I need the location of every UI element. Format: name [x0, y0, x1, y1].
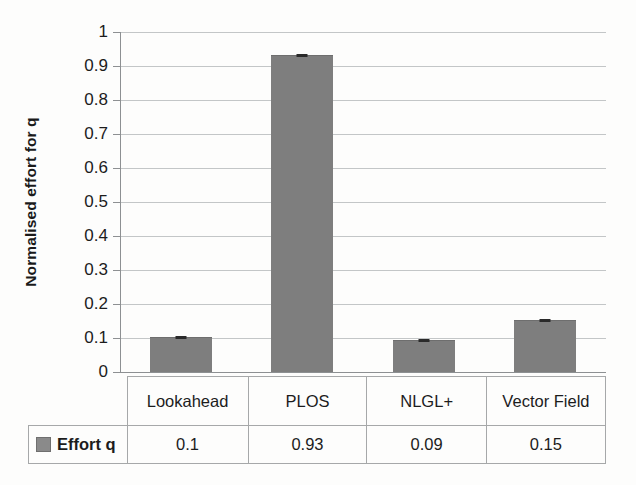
y-tick-label: 0.9 [84, 56, 108, 76]
bar-slot [485, 32, 607, 372]
table-cell-category: Lookahead [127, 377, 248, 426]
y-axis-title-text: Normalised effort for q [22, 117, 40, 286]
bar-slot [120, 32, 242, 372]
y-tick-label: 1 [99, 22, 108, 42]
table-cell-category: Vector Field [486, 377, 605, 426]
plot-area [120, 32, 606, 372]
y-tick-label: 0.7 [84, 124, 108, 144]
y-tick-label: 0.6 [84, 158, 108, 178]
table-cell-value: 0.93 [248, 426, 367, 464]
legend-swatch-icon [36, 437, 51, 452]
y-axis-title: Normalised effort for q [14, 32, 48, 372]
bar [271, 55, 333, 372]
table-corner-spacer [29, 377, 128, 426]
table-row-categories: LookaheadPLOSNLGL+Vector Field [29, 377, 606, 426]
y-tick-label: 0.3 [84, 260, 108, 280]
y-tick-label: 0.8 [84, 90, 108, 110]
table-cell-category: NLGL+ [367, 377, 486, 426]
error-bar [540, 319, 551, 322]
bar [150, 337, 212, 372]
table-cell-value: 0.09 [367, 426, 486, 464]
legend-entry: Effort q [29, 426, 128, 464]
y-tick-label: 0.5 [84, 192, 108, 212]
bar [514, 320, 576, 372]
y-tick-label: 0.4 [84, 226, 108, 246]
bar [393, 340, 455, 372]
error-bar [418, 339, 429, 342]
bar-series [120, 32, 606, 372]
y-axis-tick-labels: 10.90.80.70.60.50.40.30.20.10 [48, 32, 114, 372]
error-bar [297, 54, 308, 57]
bar-slot [242, 32, 364, 372]
table-row-values: Effort q 0.10.930.090.15 [29, 426, 606, 464]
bar-slot [363, 32, 485, 372]
table-cell-value: 0.1 [127, 426, 248, 464]
table-cell-value: 0.15 [486, 426, 605, 464]
gridline [120, 372, 606, 373]
error-bar [175, 336, 186, 339]
chart-figure: Normalised effort for q 10.90.80.70.60.5… [0, 0, 636, 485]
y-tick-label: 0.2 [84, 294, 108, 314]
table-cell-category: PLOS [248, 377, 367, 426]
legend-label: Effort q [57, 435, 116, 454]
y-tick-label: 0.1 [84, 328, 108, 348]
y-tick-mark [113, 372, 121, 373]
data-table: LookaheadPLOSNLGL+Vector Field Effort q … [28, 376, 606, 464]
